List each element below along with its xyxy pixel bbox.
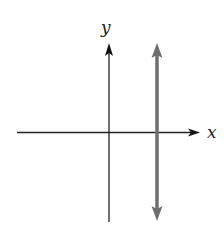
y-axis-label: y xyxy=(100,17,111,37)
coordinate-diagram: x y xyxy=(0,0,224,229)
x-axis-label: x xyxy=(207,122,217,142)
